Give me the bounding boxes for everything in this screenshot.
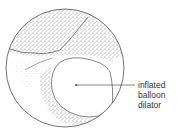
view-interior — [6, 9, 124, 125]
label-line-2: balloon — [138, 90, 165, 100]
label-line-3: dilator — [138, 100, 165, 110]
endoscopic-view-illustration — [0, 0, 178, 136]
balloon-label: inflated balloon dilator — [138, 80, 165, 110]
label-line-1: inflated — [138, 80, 165, 90]
